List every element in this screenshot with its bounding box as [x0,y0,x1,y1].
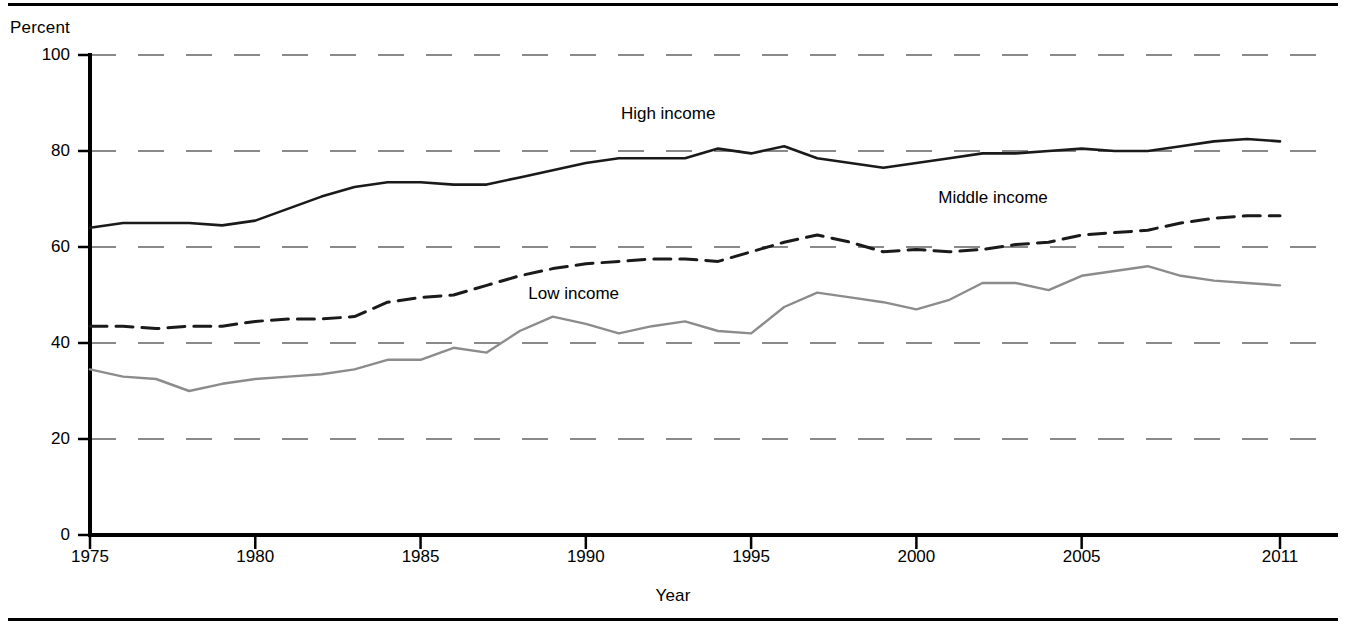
line-chart-plot [0,0,1346,629]
x-tick-label: 2005 [1042,547,1122,567]
x-tick-label: 2011 [1240,547,1320,567]
x-tick-label: 2000 [876,547,956,567]
y-tick-label: 100 [12,45,70,65]
x-tick-label: 1990 [546,547,626,567]
x-tick-label: 1975 [50,547,130,567]
y-tick-label: 0 [12,525,70,545]
series-label-low-income: Low income [526,284,621,304]
chart-page: Percent Year 020406080100197519801985199… [0,0,1346,629]
y-tick-label: 60 [12,237,70,257]
series-label-middle-income: Middle income [936,188,1050,208]
x-tick-label: 1985 [381,547,461,567]
x-tick-label: 1995 [711,547,791,567]
y-tick-label: 20 [12,429,70,449]
x-tick-label: 1980 [215,547,295,567]
series-label-high-income: High income [619,104,718,124]
y-tick-label: 40 [12,333,70,353]
series-line-low-income [90,266,1280,391]
series-line-high-income [90,139,1280,228]
y-tick-label: 80 [12,141,70,161]
